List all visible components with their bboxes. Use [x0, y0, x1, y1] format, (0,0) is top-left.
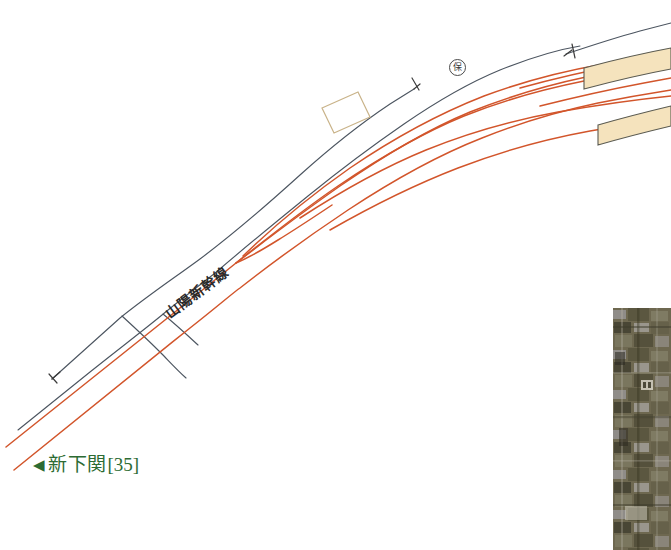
siding-crossover-mid	[163, 314, 198, 345]
main-track-3	[236, 67, 671, 263]
buffer-stop-middle	[412, 78, 420, 90]
main-track-6	[300, 96, 671, 218]
platform-upper	[584, 48, 671, 89]
siding-track-group	[18, 23, 671, 430]
left-arrow-icon: ◀	[33, 458, 45, 473]
siding-track-to-station	[214, 46, 580, 274]
buffer-stop-group	[49, 44, 575, 383]
building-outline	[322, 92, 370, 133]
platform-lower	[598, 106, 671, 145]
aerial-photograph-inset	[613, 308, 671, 550]
main-track-4	[243, 55, 671, 256]
maintenance-siding-marker-icon: 保	[449, 59, 466, 76]
siding-track-platform-upper	[566, 23, 671, 54]
siding-track-upper	[52, 89, 414, 379]
aerial-photograph-texture	[613, 308, 671, 550]
railway-diagram-canvas: 山陽新幹線 保 ◀ 新下関 [35]	[0, 0, 671, 550]
main-track-2	[14, 90, 671, 470]
buffer-stop-left	[49, 372, 60, 383]
main-track-group	[6, 55, 671, 470]
station-name-text: 新下関	[48, 455, 107, 474]
building-outline-group	[322, 92, 370, 133]
station-number-text: [35]	[108, 455, 140, 474]
station-direction-label: ◀ 新下関 [35]	[33, 455, 139, 474]
buffer-stop-right	[564, 44, 575, 58]
main-track-1	[6, 61, 671, 447]
